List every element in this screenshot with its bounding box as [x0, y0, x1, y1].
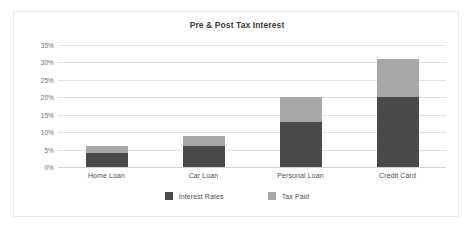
legend-swatch-icon — [165, 192, 173, 200]
y-tick-label: 0% — [14, 164, 54, 171]
bar-segment-tax-paid[interactable] — [86, 146, 128, 153]
bar-segment-tax-paid[interactable] — [183, 136, 225, 146]
legend-item[interactable]: Tax Paid — [268, 192, 310, 200]
y-tick-label: 25% — [14, 76, 54, 83]
legend-swatch-icon — [268, 192, 276, 200]
legend-label: Interest Rates — [179, 193, 224, 200]
bar-segment-tax-paid[interactable] — [377, 59, 419, 97]
x-axis: Home LoanCar LoanPersonal LoanCredit Car… — [58, 172, 446, 186]
chart-legend: Interest RatesTax Paid — [14, 192, 460, 200]
y-tick-label: 15% — [14, 111, 54, 118]
bar-segment-interest-rates[interactable] — [280, 122, 322, 167]
chart-container: Pre & Post Tax Interest 0%5%10%15%20%25%… — [13, 11, 459, 217]
legend-item[interactable]: Interest Rates — [165, 192, 224, 200]
legend-label: Tax Paid — [282, 193, 310, 200]
bar-segment-tax-paid[interactable] — [280, 97, 322, 121]
bar-group[interactable] — [183, 136, 225, 167]
y-tick-label: 5% — [14, 146, 54, 153]
x-tick-label: Personal Loan — [277, 172, 323, 179]
x-tick-label: Credit Card — [379, 172, 416, 179]
y-tick-label: 35% — [14, 42, 54, 49]
y-tick-label: 10% — [14, 129, 54, 136]
bar-group[interactable] — [377, 59, 419, 167]
x-axis-baseline — [58, 167, 446, 168]
bar-group[interactable] — [280, 97, 322, 167]
bar-segment-interest-rates[interactable] — [86, 153, 128, 167]
plot-area — [58, 45, 446, 167]
x-tick-label: Car Loan — [189, 172, 219, 179]
bar-segment-interest-rates[interactable] — [183, 146, 225, 167]
x-tick-label: Home Loan — [88, 172, 125, 179]
chart-title: Pre & Post Tax Interest — [14, 20, 460, 30]
y-tick-label: 20% — [14, 94, 54, 101]
bar-segment-interest-rates[interactable] — [377, 97, 419, 167]
bar-group[interactable] — [86, 146, 128, 167]
gridline — [58, 45, 446, 46]
y-axis: 0%5%10%15%20%25%30%35% — [14, 45, 54, 167]
y-tick-label: 30% — [14, 59, 54, 66]
